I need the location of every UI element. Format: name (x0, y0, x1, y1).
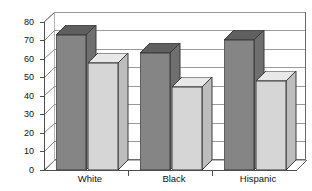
bar-hispanic-series-2[interactable] (256, 71, 286, 170)
x-group-tick-2 (212, 170, 213, 176)
y-tick-80 (40, 22, 45, 23)
bar-white-series-2[interactable] (88, 53, 118, 170)
y-axis-label-50: 50 (8, 73, 34, 82)
bar-white-series-1[interactable] (56, 25, 86, 170)
y-axis-label-0: 0 (8, 166, 34, 175)
y-tick-40 (40, 96, 45, 97)
y-axis-label-40: 40 (8, 92, 34, 101)
y-axis-label-70: 70 (8, 36, 34, 45)
y-tick-50 (40, 77, 45, 78)
y-axis-label-60: 60 (8, 55, 34, 64)
x-axis-label-hispanic: Hispanic (218, 173, 298, 184)
x-group-tick-1 (128, 170, 129, 176)
y-axis-label-20: 20 (8, 129, 34, 138)
gridline-80 (55, 12, 305, 13)
bar-black-series-2[interactable] (172, 77, 202, 170)
axis-depth-ticks (44, 12, 56, 172)
y-tick-60 (40, 59, 45, 60)
y-axis-label-10: 10 (8, 147, 34, 156)
y-tick-20 (40, 133, 45, 134)
y-tick-0 (40, 170, 45, 171)
y-tick-70 (40, 40, 45, 41)
x-axis-label-black: Black (136, 173, 212, 184)
y-tick-10 (40, 151, 45, 152)
y-tick-30 (40, 114, 45, 115)
y-axis-label-30: 30 (8, 110, 34, 119)
bar-black-series-1[interactable] (140, 43, 170, 170)
y-axis-label-80: 80 (8, 18, 34, 27)
bar-chart: 80 70 60 50 40 30 20 10 0 (0, 0, 312, 191)
x-axis-line (44, 170, 296, 171)
bar-hispanic-series-1[interactable] (224, 30, 254, 170)
x-axis-label-white: White (52, 173, 128, 184)
